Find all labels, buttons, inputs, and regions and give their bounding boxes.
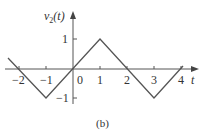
x-tick-label: 1 — [97, 73, 103, 87]
triangle-wave-figure: −2 −1 0 1 2 3 4 1 −1 v2(t) t (b) — [0, 0, 203, 137]
x-axis-arrow-icon — [191, 66, 199, 72]
y-tick-label: −1 — [56, 91, 69, 105]
x-axis-label: t — [191, 73, 195, 87]
x-tick-label: −1 — [40, 73, 53, 87]
x-tick-label: 2 — [124, 73, 130, 87]
y-axis-arrow-icon — [70, 11, 76, 19]
x-tick-label: 4 — [178, 73, 184, 87]
x-tick-label: 3 — [151, 73, 157, 87]
y-axis-label: v2(t) — [44, 9, 65, 25]
x-tick-label: 0 — [77, 73, 83, 87]
figure-caption: (b) — [96, 117, 109, 130]
x-tick-label: −2 — [12, 73, 25, 87]
y-tick-label: 1 — [62, 32, 68, 46]
